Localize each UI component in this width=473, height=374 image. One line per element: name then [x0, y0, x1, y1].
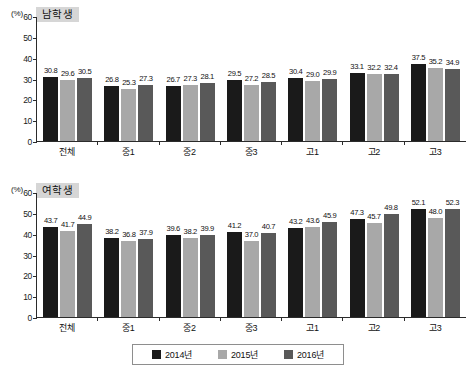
bar-value-label: 52.3 — [446, 198, 459, 207]
y-axis-tick-mark — [33, 297, 37, 298]
x-axis-category-label: 중3 — [220, 321, 281, 334]
bar-group: 43.243.645.9 — [282, 193, 343, 317]
bar-value-label: 30.4 — [289, 67, 302, 76]
y-axis-tick-label: 60 — [6, 188, 32, 198]
x-axis-category-label: 중2 — [159, 145, 220, 158]
bar-value-label: 37.5 — [412, 53, 425, 62]
chart-page: (%) 남학생 30.829.630.526.825.327.326.727.3… — [0, 0, 473, 374]
bar-group: 30.429.029.9 — [282, 17, 343, 141]
legend-label-2015: 2015년 — [231, 348, 258, 361]
bar-value-label: 33.1 — [350, 62, 363, 71]
bar-group: 38.236.837.9 — [98, 193, 159, 317]
bar: 37.0 — [244, 241, 259, 317]
bar: 44.9 — [77, 224, 92, 317]
y-axis-tick-label: 0 — [6, 313, 32, 323]
legend-item: 2014년 — [152, 348, 192, 361]
bar: 41.2 — [227, 232, 242, 317]
bar-groups-female: 43.741.744.938.236.837.939.638.239.941.2… — [37, 193, 466, 317]
bar-group: 39.638.239.9 — [160, 193, 221, 317]
y-axis-tick-mark — [33, 256, 37, 257]
bar: 38.2 — [183, 238, 198, 317]
bar-value-label: 45.9 — [323, 211, 336, 220]
bar-value-label: 39.6 — [167, 224, 180, 233]
y-axis-tick-mark — [33, 59, 37, 60]
bar-group: 37.535.234.9 — [405, 17, 466, 141]
y-axis-tick-label: 20 — [6, 95, 32, 105]
bar: 48.0 — [428, 218, 443, 317]
bar: 27.3 — [183, 85, 198, 141]
bar-value-label: 43.2 — [289, 217, 302, 226]
bar-value-label: 37.9 — [139, 228, 152, 237]
bar-value-label: 40.7 — [262, 222, 275, 231]
bar: 43.6 — [305, 227, 320, 317]
bar: 43.2 — [288, 228, 303, 317]
y-axis-tick-mark — [33, 276, 37, 277]
bar-group: 29.527.228.5 — [221, 17, 282, 141]
legend-swatch-2014 — [152, 350, 161, 359]
bar-value-label: 39.9 — [201, 224, 214, 233]
bar: 37.9 — [138, 239, 153, 317]
bar: 26.8 — [104, 86, 119, 141]
bar: 26.7 — [166, 86, 181, 141]
bar: 45.7 — [367, 223, 382, 317]
bar-value-label: 25.3 — [122, 78, 135, 87]
bar: 40.7 — [261, 233, 276, 317]
bar-value-label: 52.1 — [412, 198, 425, 207]
bar: 43.7 — [43, 227, 58, 317]
x-axis-line — [36, 141, 466, 142]
bar: 25.3 — [121, 89, 136, 141]
x-axis-category-label: 고3 — [405, 145, 466, 158]
bar-value-label: 48.0 — [429, 207, 442, 216]
bar: 39.9 — [200, 235, 215, 317]
bar: 33.1 — [350, 73, 365, 141]
bar: 41.7 — [60, 231, 75, 317]
bar-group: 52.148.052.3 — [405, 193, 466, 317]
bar: 49.8 — [384, 214, 399, 317]
legend-item: 2015년 — [218, 348, 258, 361]
y-axis-tick-label: 40 — [6, 54, 32, 64]
bar-value-label: 26.8 — [105, 75, 118, 84]
bar-value-label: 49.8 — [384, 203, 397, 212]
bar-value-label: 27.3 — [139, 74, 152, 83]
x-axis-category-label: 중1 — [97, 321, 158, 334]
bar: 52.3 — [445, 209, 460, 317]
x-axis-category-label: 중1 — [97, 145, 158, 158]
chart-legend: 2014년2015년2016년 — [132, 344, 344, 365]
legend-label-2014: 2014년 — [165, 348, 192, 361]
bar-value-label: 29.0 — [306, 70, 319, 79]
bar: 29.0 — [305, 81, 320, 141]
y-axis-tick-label: 30 — [6, 75, 32, 85]
bar: 36.8 — [121, 241, 136, 317]
bar: 52.1 — [411, 209, 426, 317]
x-axis-category-label: 전체 — [36, 145, 97, 158]
x-axis-category-label: 고3 — [405, 321, 466, 334]
x-axis-category-label: 고2 — [343, 145, 404, 158]
y-axis-tick-mark — [33, 38, 37, 39]
bar: 29.5 — [227, 80, 242, 141]
bar: 28.5 — [261, 82, 276, 141]
y-axis-tick-mark — [33, 17, 37, 18]
bar-group: 26.825.327.3 — [98, 17, 159, 141]
bar: 45.9 — [322, 222, 337, 317]
bar-value-label: 41.2 — [228, 221, 241, 230]
bar: 30.5 — [77, 78, 92, 141]
plot-area-female: 43.741.744.938.236.837.939.638.239.941.2… — [36, 193, 466, 318]
bar-value-label: 28.1 — [201, 72, 214, 81]
legend-swatch-2015 — [218, 350, 227, 359]
bar-value-label: 37.0 — [245, 230, 258, 239]
y-axis-tick-label: 0 — [6, 137, 32, 147]
bar-value-label: 30.8 — [44, 66, 57, 75]
bar-value-label: 43.7 — [44, 216, 57, 225]
y-axis-tick-mark — [33, 142, 37, 143]
bar-value-label: 36.8 — [122, 230, 135, 239]
bar-value-label: 27.2 — [245, 74, 258, 83]
bar-group: 33.132.232.4 — [343, 17, 404, 141]
bar-value-label: 27.3 — [184, 74, 197, 83]
bar: 38.2 — [104, 238, 119, 317]
bar-value-label: 44.9 — [78, 213, 91, 222]
bar-group: 26.727.328.1 — [160, 17, 221, 141]
bar-value-label: 32.2 — [367, 63, 380, 72]
bar-value-label: 26.7 — [167, 75, 180, 84]
y-axis-tick-mark — [33, 193, 37, 194]
bar: 34.9 — [445, 69, 460, 141]
